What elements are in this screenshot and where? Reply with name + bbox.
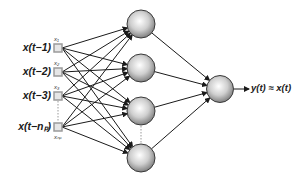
hidden-node [127, 54, 155, 82]
connection-edge [62, 35, 132, 127]
hidden-node [127, 97, 155, 125]
connection-edge [154, 93, 207, 108]
output-label: y(t) ≈ x(t) [251, 82, 291, 93]
input-node-square [54, 92, 62, 100]
connection-edge [62, 72, 128, 105]
connection-edge [62, 69, 127, 72]
input-sublabel: x₁ [54, 36, 59, 42]
input-node-square [54, 44, 62, 52]
input-sublabel: x₃ [54, 84, 59, 90]
output-node [207, 76, 234, 103]
input-sublabel: x₂ [54, 60, 59, 66]
hidden-node [127, 144, 155, 172]
input-label: x(t−1) [1, 41, 51, 53]
input-label: x(t−nₚ) [1, 120, 51, 132]
input-sublabel: xₙₚ [54, 133, 62, 140]
connection-edge [155, 72, 207, 86]
input-node-square [54, 123, 62, 131]
input-label: x(t−3) [1, 89, 51, 101]
hidden-node [127, 10, 155, 38]
input-to-hidden-connections [62, 28, 133, 153]
hidden-layer [127, 10, 155, 172]
hidden-to-output-connections [152, 33, 210, 149]
input-label: x(t−2) [1, 65, 51, 77]
connection-edge [62, 96, 130, 150]
connection-edge [62, 33, 130, 96]
input-node-square [54, 68, 62, 76]
